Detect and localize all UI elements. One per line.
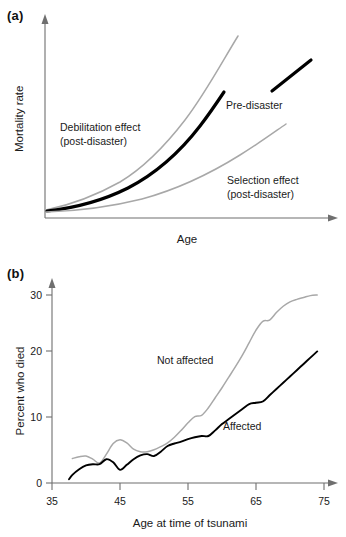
panel-b-y-tick-label-0: 0 bbox=[36, 477, 42, 489]
panel-a-curve-pre-disaster bbox=[47, 92, 224, 211]
panel-b-plot: 0 10 20 30 35 45 55 65 75 Percent who di… bbox=[0, 258, 346, 537]
panel-b-x-tick-label-35: 35 bbox=[46, 495, 58, 507]
annotation-selection-line1: Selection effect bbox=[227, 174, 299, 186]
panel-b-tag: (b) bbox=[7, 266, 24, 281]
panel-a: (a) Mortality rate Age Debilitation effe… bbox=[0, 0, 346, 258]
figure-container: (a) Mortality rate Age Debilitation effe… bbox=[0, 0, 346, 537]
annotation-pre-disaster: Pre-disaster bbox=[226, 99, 283, 111]
annotation-debilitation-line2: (post-disaster) bbox=[60, 135, 127, 147]
panel-a-y-axis-arrowhead bbox=[42, 14, 49, 24]
panel-b: (b) 0 10 20 30 35 45 55 bbox=[0, 258, 346, 537]
panel-a-plot: Mortality rate Age Debilitation effect (… bbox=[0, 0, 346, 258]
panel-b-x-axis-label: Age at time of tsunami bbox=[133, 517, 247, 529]
panel-b-y-tick-label-30: 30 bbox=[30, 289, 42, 301]
panel-a-y-axis-label: Mortality rate bbox=[13, 86, 25, 152]
annotation-debilitation-line1: Debilitation effect bbox=[60, 121, 140, 133]
panel-b-y-axis-arrowhead bbox=[49, 278, 56, 288]
panel-b-curve-affected bbox=[69, 351, 317, 479]
panel-b-y-tick-label-20: 20 bbox=[30, 345, 42, 357]
panel-a-x-axis-label: Age bbox=[177, 233, 197, 245]
annotation-not-affected: Not affected bbox=[157, 354, 214, 366]
panel-b-x-tick-label-45: 45 bbox=[114, 495, 126, 507]
annotation-affected: Affected bbox=[223, 420, 261, 432]
panel-a-x-axis-arrowhead bbox=[328, 215, 338, 222]
panel-b-x-tick-label-55: 55 bbox=[182, 495, 194, 507]
panel-a-segment-pre-disaster bbox=[272, 60, 311, 91]
panel-a-tag: (a) bbox=[7, 8, 24, 23]
annotation-selection-line2: (post-disaster) bbox=[227, 188, 294, 200]
panel-b-x-axis-arrowhead bbox=[328, 480, 338, 487]
panel-b-x-tick-label-65: 65 bbox=[250, 495, 262, 507]
panel-b-x-tick-label-75: 75 bbox=[318, 495, 330, 507]
panel-b-y-tick-label-10: 10 bbox=[30, 411, 42, 423]
panel-b-y-axis-label: Percent who died bbox=[14, 347, 26, 436]
